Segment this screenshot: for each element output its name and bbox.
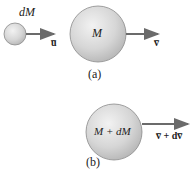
small-sphere-dM [4, 23, 26, 45]
label-dM: dM [19, 5, 35, 20]
label-M: M [92, 26, 102, 41]
label-u: u̅ [51, 37, 57, 48]
label-v: v̅ [154, 37, 159, 48]
caption-b: (b) [86, 155, 100, 170]
label-v-plus-dv: v̅ + dv̅ [156, 130, 182, 141]
label-M-plus-dM: M + dM [94, 125, 131, 137]
caption-a: (a) [88, 67, 101, 82]
momentum-diagram: dM M u̅ v̅ (a) M + dM v̅ + dv̅ (b) [0, 0, 194, 181]
